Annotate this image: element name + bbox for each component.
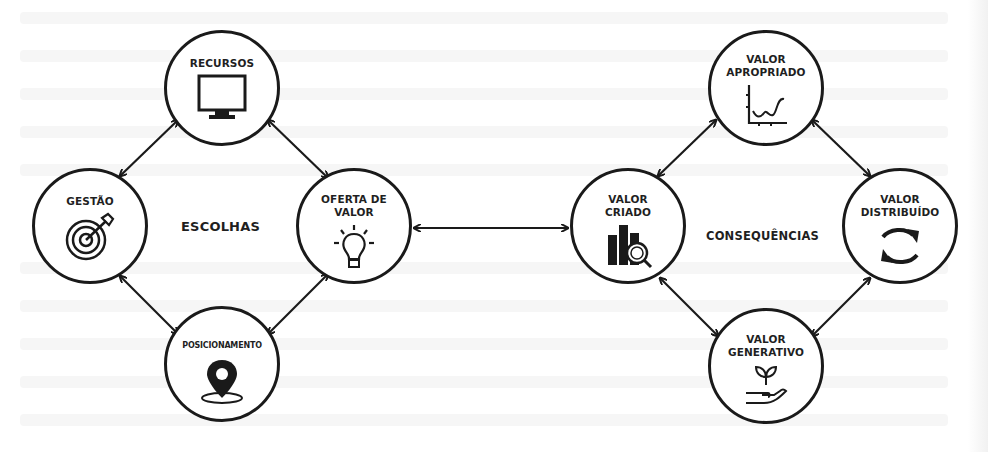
edge-oferta-posicionamento xyxy=(268,274,328,334)
node-label: VALOR CRIADO xyxy=(605,193,651,219)
node-label: VALOR APROPRIADO xyxy=(726,53,805,79)
node-recursos: RECURSOS xyxy=(164,30,280,146)
monitor-icon xyxy=(196,74,248,126)
line-chart-icon xyxy=(741,83,791,131)
node-label: RECURSOS xyxy=(190,57,254,70)
node-label: OFERTA DE VALOR xyxy=(321,193,387,219)
refresh-arrows-icon xyxy=(875,223,925,273)
edge-generativo-criado xyxy=(660,278,718,336)
edge-posicionamento-gestao xyxy=(120,276,178,334)
node-valor-generativo: VALOR GENERATIVO xyxy=(708,308,824,424)
target-icon xyxy=(64,212,116,266)
edge-apropriado-distribuido xyxy=(812,120,870,176)
bar-chart-magnifier-icon xyxy=(602,223,654,273)
node-valor-apropriado: VALOR APROPRIADO xyxy=(708,30,824,146)
node-label: GESTÃO xyxy=(66,195,113,208)
edge-criado-apropriado xyxy=(658,120,716,176)
lightbulb-icon xyxy=(329,223,379,275)
connector-layer xyxy=(0,0,988,452)
group-label-escolhas: ESCOLHAS xyxy=(181,219,260,234)
node-label: VALOR DISTRIBUÍDO xyxy=(861,193,940,219)
node-label: POSICIONAMENTO xyxy=(182,339,262,352)
plant-in-hand-icon xyxy=(740,363,792,413)
edge-distribuido-generativo xyxy=(812,278,870,336)
node-valor-distribuido: VALOR DISTRIBUÍDO xyxy=(842,168,958,284)
node-label: VALOR GENERATIVO xyxy=(728,333,804,359)
node-posicionamento: POSICIONAMENTO xyxy=(164,306,280,422)
node-valor-criado: VALOR CRIADO xyxy=(570,168,686,284)
node-gestao: GESTÃO xyxy=(32,168,148,284)
node-oferta-de-valor: OFERTA DE VALOR xyxy=(296,168,412,284)
edge-recursos-oferta xyxy=(268,120,328,178)
edge-gestao-recursos xyxy=(120,120,178,176)
group-label-consequencias: CONSEQUÊNCIAS xyxy=(706,229,819,243)
location-pin-icon xyxy=(197,358,247,408)
